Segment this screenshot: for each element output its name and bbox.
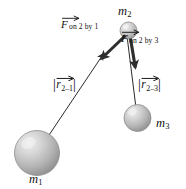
mass-sphere-m3 — [124, 105, 151, 132]
mass-label-m3: m3 — [156, 117, 170, 131]
abs-bar-right: | — [73, 77, 76, 92]
force-label-on-2-by-3: F on 2 by 3 — [121, 33, 158, 45]
distance-label-r-2-3: | r 2–3| — [138, 78, 161, 93]
mass-label-m1: m1 — [29, 173, 43, 187]
force-diagram-figure: m2 m3 m1 F on 2 by 1 F on 2 by 3 | r 2 — [0, 0, 186, 189]
distance-label-r-2-1: | r 2–1| — [53, 78, 76, 93]
abs-bar-right: | — [158, 77, 161, 92]
force-label-on-2-by-1: F on 2 by 1 — [61, 19, 98, 31]
mass-sphere-m1 — [15, 131, 60, 176]
mass-label-m2: m2 — [118, 5, 132, 19]
